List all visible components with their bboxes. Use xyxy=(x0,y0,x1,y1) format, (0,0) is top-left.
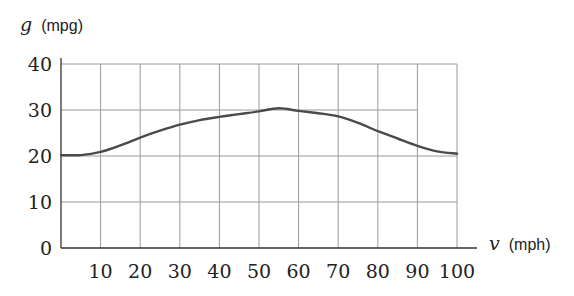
y-tick-label: 40 xyxy=(28,53,52,75)
x-tick-label: 40 xyxy=(207,260,231,282)
y-tick-label: 0 xyxy=(40,237,52,259)
y-tick-label: 30 xyxy=(28,99,52,121)
x-tick-labels: 102030405060708090100 xyxy=(89,260,476,282)
x-tick-label: 90 xyxy=(405,260,429,282)
x-tick-label: 100 xyxy=(439,260,475,282)
x-tick-label: 20 xyxy=(128,260,152,282)
x-tick-label: 30 xyxy=(168,260,192,282)
fuel-efficiency-chart: 010203040 102030405060708090100 g (mpg) … xyxy=(0,0,574,296)
y-tick-labels: 010203040 xyxy=(28,53,52,259)
x-tick-label: 70 xyxy=(326,260,350,282)
x-axis-label: v (mph) xyxy=(489,232,551,254)
x-tick-label: 80 xyxy=(366,260,390,282)
x-tick-label: 60 xyxy=(287,260,311,282)
y-axis-label: g (mpg) xyxy=(20,13,83,35)
x-tick-label: 10 xyxy=(89,260,113,282)
x-axis-unit: (mph) xyxy=(509,236,551,253)
axes xyxy=(61,58,477,248)
y-axis-unit: (mpg) xyxy=(41,17,83,34)
x-tick-label: 50 xyxy=(247,260,271,282)
y-axis-variable: g xyxy=(20,13,32,35)
x-axis-variable: v xyxy=(489,232,500,254)
y-tick-label: 10 xyxy=(28,191,52,213)
y-tick-label: 20 xyxy=(28,145,52,167)
gridlines xyxy=(61,64,457,248)
